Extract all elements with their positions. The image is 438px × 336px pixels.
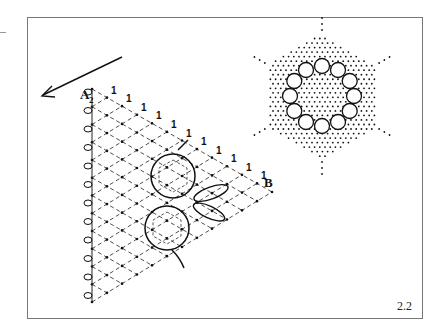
svg-text:1: 1: [111, 85, 117, 96]
flower-ring: [283, 59, 362, 134]
svg-text:1: 1: [126, 93, 132, 104]
hexagonal-ground-pricking: [254, 17, 391, 175]
svg-text:1: 1: [186, 128, 192, 139]
svg-text:1: 1: [261, 170, 267, 181]
svg-text:1: 1: [231, 153, 237, 164]
svg-text:1: 1: [216, 145, 222, 156]
leaf-tallies: [191, 181, 230, 224]
svg-text:1: 1: [141, 102, 147, 113]
svg-text:1: 1: [156, 110, 162, 121]
lace-diagram: A 2 B 11111111111: [0, 0, 438, 336]
figure-number: 2.2: [397, 299, 412, 314]
label-a-subscript: 2: [89, 95, 94, 105]
edge-pinholes: [84, 89, 92, 299]
svg-text:1: 1: [201, 136, 207, 147]
svg-text:1: 1: [171, 119, 177, 130]
svg-text:1: 1: [246, 162, 252, 173]
